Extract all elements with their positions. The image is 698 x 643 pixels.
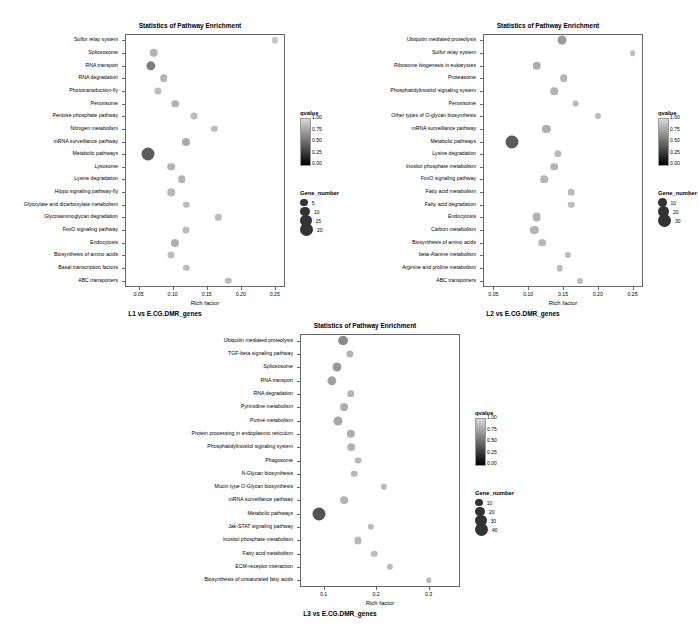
data-point [149,49,158,58]
data-point [183,227,190,234]
category-label: Lysine degradation [0,176,118,181]
data-point [354,457,361,464]
data-point [340,403,348,411]
y-tick-mark [297,341,300,342]
x-tick-mark [563,287,564,290]
panel-l2-legend-size-items: 102030 [658,198,697,225]
data-point [168,252,175,259]
y-tick-mark [480,167,483,168]
panel-l3-legend-qvalue: qvalue 1.000.750.500.250.00 [475,410,493,466]
y-tick-mark [122,78,125,79]
category-label: RNA transport [0,63,118,68]
size-legend-dot [300,199,308,207]
qvalue-legend-label: 0.50 [670,138,680,150]
panel-l2-caption: L2 vs E.CG.DMR_genes [403,310,643,317]
y-tick-mark [297,567,300,568]
y-tick-mark [480,40,483,41]
size-legend-dot [475,499,483,507]
size-legend-label: 20 [489,509,495,515]
category-label: Phosphatidylinositol signaling system [175,444,293,449]
x-tick-label: 0.15 [549,291,577,297]
y-tick-mark [122,104,125,105]
category-label: Biosynthesis of amino acids [358,240,476,245]
category-label: Spliceosome [0,50,118,55]
y-tick-mark [297,514,300,515]
panel-l3-legend-size-title: Gene_number [475,490,514,496]
data-point [172,100,180,108]
data-point [178,176,186,184]
category-label: Peroxisome [358,101,476,106]
data-point [556,265,563,272]
y-tick-mark [122,268,125,269]
category-label: Phosphatidylinositol signaling system [358,88,476,93]
size-legend-label: 10 [487,500,493,506]
panel-l2-xlabel: Rich factor [483,300,643,306]
panel-l3-legend-qvalue-labels: 1.000.750.500.250.00 [487,415,497,473]
x-tick-label: 0.20 [227,291,255,297]
x-tick-label: 0.05 [479,291,507,297]
category-label: Pyrimidine metabolism [175,404,293,409]
category-label: Ubiquitin mediated proteolysis [175,338,293,343]
panel-l3-plot: Ubiquitin mediated proteolysisTGF-beta s… [175,322,515,622]
x-tick-label: 0.3 [415,591,443,597]
data-point [168,188,176,196]
category-label: RNA transport [175,378,293,383]
y-tick-mark [480,255,483,256]
data-point [340,497,348,505]
y-tick-mark [122,129,125,130]
category-label: Glyoxylate and dicarboxylate metabolism [0,202,118,207]
panel-l1-xlabel: Rich factor [125,300,285,306]
panel-l3: Statistics of Pathway Enrichment Ubiquit… [175,322,515,632]
category-label: RNA degradation [0,75,118,80]
category-label: Basal transcription factors [0,265,118,270]
data-point [568,189,575,196]
panel-l1-caption: L1 vs E.CG.DMR_genes [45,310,285,317]
qvalue-gradient [300,118,311,166]
data-point [338,336,348,346]
category-label: ABC transporters [358,278,476,283]
size-legend-label: 5 [312,200,315,206]
y-tick-mark [480,142,483,143]
data-point [426,578,432,584]
category-label: Lysosome [0,164,118,169]
data-point [168,163,176,171]
size-legend-label: 30 [491,518,497,524]
category-label: Jak-STAT signaling pathway [175,524,293,529]
size-legend-item: 40 [475,525,514,534]
panel-l3-legend-size-items: 10203040 [475,498,514,534]
y-tick-mark [480,66,483,67]
panel-l2-plot-area [483,34,643,287]
size-legend-item: 5 [300,198,339,207]
data-point [568,202,575,209]
category-label: Fatty acid metabolism [175,551,293,556]
data-point [347,443,355,451]
y-tick-mark [480,192,483,193]
category-label: N-Glycan biosynthesis [175,471,293,476]
y-tick-mark [297,447,300,448]
category-label: ABC transporters [0,278,118,283]
category-label: TGF-beta signaling pathway [175,351,293,356]
panel-l2-legend-size: Gene_number 102030 [658,190,697,225]
category-label: Ubiquitin mediated proteolysis [358,37,476,42]
y-tick-mark [297,540,300,541]
size-legend-label: 20 [673,209,679,215]
y-tick-mark [480,179,483,180]
category-label: Glycosaminoglycan degradation [0,214,118,219]
data-point [572,100,579,107]
category-label: Phagosome [175,458,293,463]
data-point [506,135,519,148]
size-legend-label: 30 [675,218,681,224]
data-point [160,74,168,82]
data-point [142,148,155,161]
y-tick-mark [480,104,483,105]
x-tick-mark [207,287,208,290]
panel-l1-legend-qvalue-labels: 1.000.750.500.250.00 [312,115,322,173]
y-tick-mark [297,487,300,488]
x-tick-mark [241,287,242,290]
y-tick-mark [122,205,125,206]
y-tick-mark [122,230,125,231]
category-label: Proteasome [358,75,476,80]
category-label: Metabolic pathways [0,151,118,156]
y-tick-mark [122,53,125,54]
category-label: Nitrogen metabolism [0,126,118,131]
